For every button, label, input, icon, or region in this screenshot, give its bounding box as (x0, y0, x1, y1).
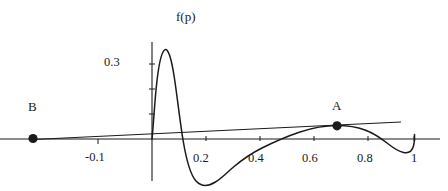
secant-line (33, 122, 401, 140)
plot-figure: f(p) 0.3 B A -0.1 0.2 0.4 0.6 0.8 1 (0, 0, 448, 191)
point-a-marker (332, 121, 341, 130)
point-a-label: A (332, 99, 341, 112)
plot-canvas (0, 0, 448, 191)
x-tick-label-0-6: 0.6 (302, 152, 318, 165)
x-axis-ticks (98, 136, 414, 144)
x-tick-label-1: 1 (411, 152, 417, 165)
y-tick-label-0-3: 0.3 (104, 56, 120, 69)
x-tick-label-0-8: 0.8 (357, 152, 373, 165)
point-b-label: B (28, 100, 37, 113)
x-tick-label-neg-0-1: -0.1 (85, 151, 105, 164)
f-of-p-curve (152, 50, 415, 186)
x-tick-label-0-4: 0.4 (248, 152, 264, 165)
point-b-marker (28, 134, 37, 143)
curve-label-fp: f(p) (176, 10, 196, 23)
x-tick-label-0-2: 0.2 (193, 152, 209, 165)
